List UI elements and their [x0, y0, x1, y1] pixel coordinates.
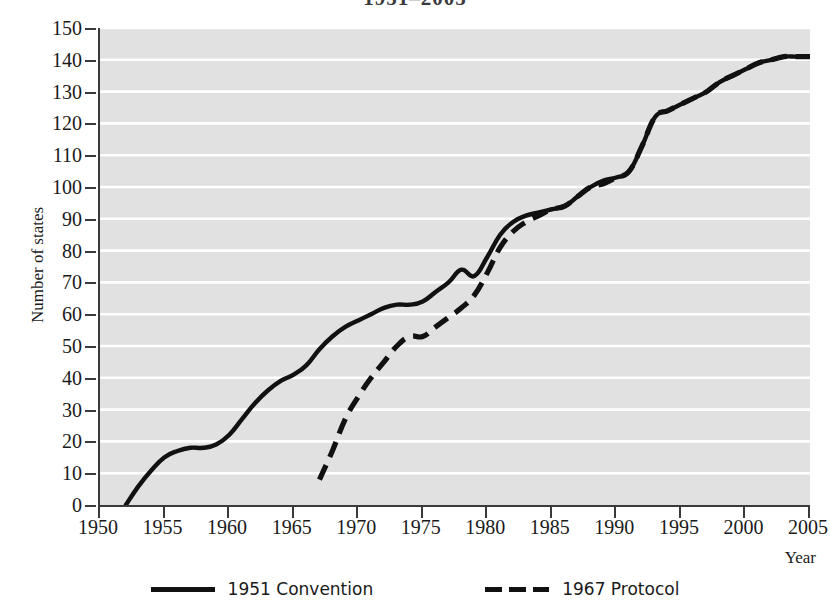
x-tick-label: 1960: [207, 516, 247, 538]
x-tick-mark: [614, 507, 616, 518]
legend-entry-2[interactable]: 1967 Protocol: [485, 579, 679, 599]
legend-label: 1951 Convention: [228, 579, 374, 599]
x-tick-mark: [808, 507, 810, 518]
solid-line-icon: [151, 587, 215, 592]
x-tick-label: 1965: [272, 516, 312, 538]
x-tick-label: 2000: [723, 516, 763, 538]
legend-entry-1[interactable]: 1951 Convention: [151, 579, 374, 599]
chart-figure: 1951–2005 010203040506070809010011012013…: [0, 0, 830, 614]
x-tick-mark: [743, 507, 745, 518]
x-tick-label: 1995: [659, 516, 699, 538]
y-axis-title: Number of states: [28, 165, 48, 365]
x-tick-mark: [421, 507, 423, 518]
x-tick-mark: [550, 507, 552, 518]
x-tick-mark: [163, 507, 165, 518]
x-tick-mark: [485, 507, 487, 518]
dashed-line-icon: [485, 587, 549, 592]
x-tick-label: 1975: [401, 516, 441, 538]
x-tick-label: 1955: [143, 516, 183, 538]
x-tick-label: 2005: [788, 516, 828, 538]
chart-legend: 1951 Convention1967 Protocol: [0, 579, 830, 599]
x-tick-label: 1990: [594, 516, 634, 538]
x-tick-label: 1985: [530, 516, 570, 538]
x-tick-mark: [98, 507, 100, 518]
x-tick-label: 1980: [465, 516, 505, 538]
x-tick-mark: [292, 507, 294, 518]
x-axis-title: Year: [785, 548, 816, 568]
x-tick-mark: [227, 507, 229, 518]
x-tick-label: 1950: [78, 516, 118, 538]
x-tick-mark: [356, 507, 358, 518]
x-tick-label: 1970: [336, 516, 376, 538]
x-tick-mark: [679, 507, 681, 518]
x-axis: 1950195519601965197019751980198519901995…: [0, 0, 830, 614]
legend-label: 1967 Protocol: [562, 579, 679, 599]
